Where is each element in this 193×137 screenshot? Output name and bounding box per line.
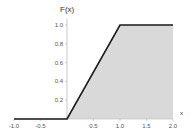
y-axis-label: F(x) xyxy=(60,5,75,14)
x-tick-label: 1.5 xyxy=(142,123,151,129)
x-tick-label: 2.0 xyxy=(169,123,178,129)
x-tick-label: -1.0 xyxy=(9,123,20,129)
x-axis-label: x xyxy=(180,110,183,116)
y-tick-label: 0.2 xyxy=(55,97,64,103)
x-tick-label: -0.5 xyxy=(35,123,46,129)
x-tick-label: 0.5 xyxy=(89,123,98,129)
x-tick-label: 1.0 xyxy=(116,123,125,129)
shaded-area xyxy=(67,25,173,119)
y-tick-labels: 0.20.40.60.81.0 xyxy=(55,22,67,103)
chart-canvas: -1.0-0.50.51.01.52.0 0.20.40.60.81.0 F(x… xyxy=(0,0,193,137)
x-tick-labels: -1.0-0.50.51.01.52.0 xyxy=(9,119,178,129)
y-tick-label: 1.0 xyxy=(55,22,64,28)
y-tick-label: 0.8 xyxy=(55,41,64,47)
cdf-chart: -1.0-0.50.51.01.52.0 0.20.40.60.81.0 F(x… xyxy=(0,0,193,137)
y-tick-label: 0.6 xyxy=(55,60,64,66)
y-tick-label: 0.4 xyxy=(55,78,64,84)
